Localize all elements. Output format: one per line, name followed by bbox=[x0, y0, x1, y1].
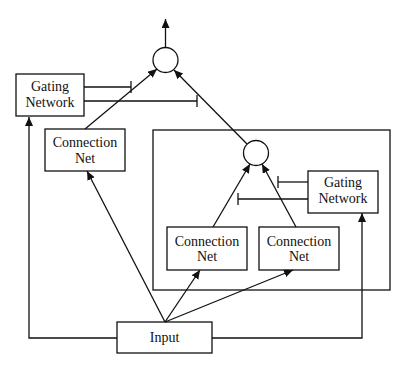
modular-network-diagram: Gating Network Connection Net Ga bbox=[0, 0, 407, 368]
inner-connection-left-label-line1: Connection bbox=[175, 234, 240, 249]
inner-left-to-combiner-arrow bbox=[213, 164, 250, 227]
outer-gate-line-upper bbox=[84, 81, 131, 93]
outer-gating-label-line2: Network bbox=[26, 95, 75, 110]
outer-connection-label-line2: Net bbox=[75, 151, 95, 166]
input-to-inner-right-arrow bbox=[165, 270, 293, 322]
input-node: Input bbox=[117, 322, 212, 353]
outer-gating-label-line1: Gating bbox=[31, 79, 69, 94]
inner-combiner-circle bbox=[244, 141, 269, 166]
outer-connection-to-combiner-arrow bbox=[85, 69, 157, 129]
inner-combiner-to-outer-combiner-arrow bbox=[174, 70, 247, 144]
inner-connection-left-label-line2: Net bbox=[197, 249, 217, 264]
inner-connection-right-label-line1: Connection bbox=[267, 234, 332, 249]
inner-connection-right-label-line2: Net bbox=[289, 249, 309, 264]
inner-gating-label-line2: Network bbox=[319, 191, 368, 206]
outer-gate-line-lower bbox=[84, 95, 197, 107]
outer-connection-label-line1: Connection bbox=[53, 135, 118, 150]
inner-right-to-combiner-arrow bbox=[262, 164, 296, 227]
inner-gating-network-node: Gating Network bbox=[308, 171, 378, 213]
inner-gating-label-line1: Gating bbox=[324, 175, 362, 190]
inner-gate-line-upper bbox=[278, 176, 308, 188]
input-label: Input bbox=[150, 330, 180, 345]
outer-connection-net-node: Connection Net bbox=[45, 129, 125, 171]
inner-gate-line-lower bbox=[238, 193, 308, 205]
inner-connection-net-right-node: Connection Net bbox=[259, 227, 339, 270]
inner-connection-net-left-node: Connection Net bbox=[167, 227, 247, 270]
diagram-svg: Gating Network Connection Net Ga bbox=[0, 0, 407, 368]
outer-gating-network-node: Gating Network bbox=[16, 74, 84, 116]
